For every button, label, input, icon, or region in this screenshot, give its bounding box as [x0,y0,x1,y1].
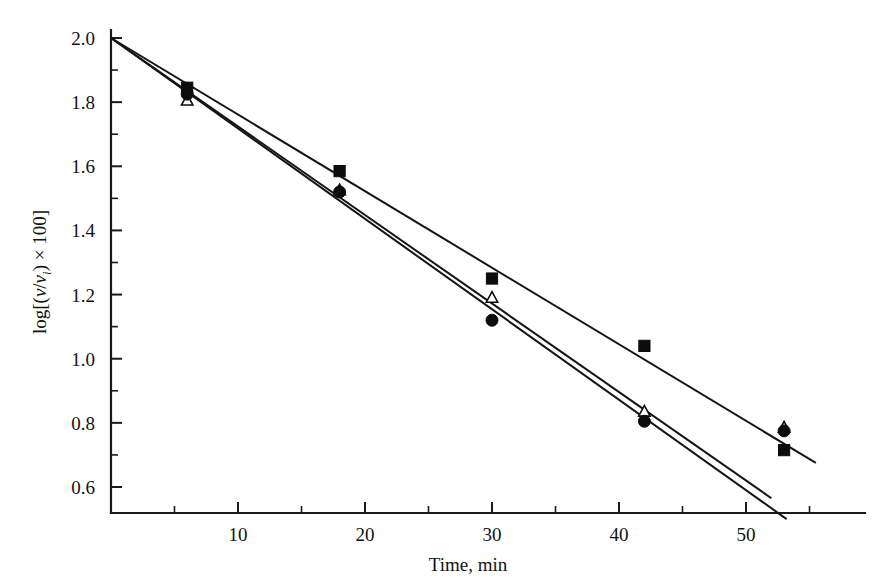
y-tick-label: 0.8 [71,413,95,434]
y-tick-label: 1.2 [71,285,95,306]
marker-circle [181,88,193,100]
y-axis-ticks [111,38,122,487]
marker-circle [486,314,498,326]
regression-lines [111,38,816,519]
marker-square [779,445,790,456]
marker-circle [778,425,790,437]
x-axis-title: Time, min [429,554,508,575]
y-tick-label: 0.6 [71,477,95,498]
data-point-markers [181,82,790,456]
y-tick-label: 1.4 [71,220,95,241]
x-tick-label: 10 [229,524,248,545]
x-tick-label: 30 [483,524,502,545]
y-title-suffix: ) × 100] [29,210,51,271]
marker-triangle [486,292,497,303]
marker-circle [334,186,346,198]
x-axis-tick-labels: 1020304050 [229,524,756,545]
x-tick-label: 40 [610,524,629,545]
y-tick-label: 1.8 [71,92,95,113]
y-tick-label: 1.6 [71,156,95,177]
x-axis-ticks [175,502,810,513]
marker-square [334,165,345,176]
marker-circle [638,415,650,427]
marker-square [486,273,497,284]
chart-canvas: 0.60.81.01.21.41.61.82.0 1020304050 Time… [0,0,880,588]
fit-line-series-circle [111,38,787,519]
x-tick-label: 20 [356,524,375,545]
y-tick-label: 2.0 [71,28,95,49]
marker-square [639,340,650,351]
axes-group [111,30,865,513]
fit-line-series-triangle [111,38,771,498]
svg-text:log[(v/vi) × 100]: log[(v/vi) × 100] [29,210,54,334]
y-title-prefix: log[( [29,297,51,334]
figure-container: 0.60.81.01.21.41.61.82.0 1020304050 Time… [0,0,880,588]
y-axis-tick-labels: 0.60.81.01.21.41.61.82.0 [71,28,95,498]
y-tick-label: 1.0 [71,349,95,370]
x-tick-label: 50 [737,524,756,545]
y-axis-title: log[(v/vi) × 100] [29,210,54,334]
fit-line-series-square [111,38,816,463]
